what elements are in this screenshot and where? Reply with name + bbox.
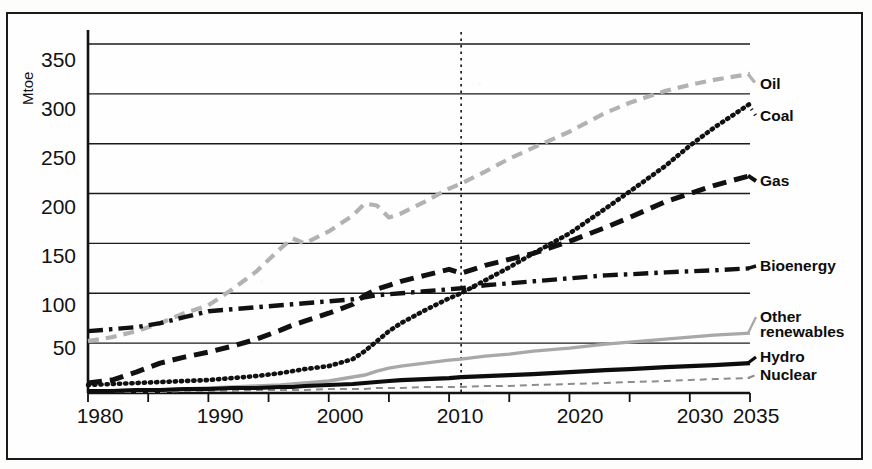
label-connector-oil — [748, 74, 756, 84]
series-line-bioenergy — [88, 268, 750, 331]
label-connector-other-renewables — [748, 317, 756, 333]
label-connector-hydro — [748, 357, 756, 363]
energy-demand-line-chart — [0, 0, 872, 469]
label-connector-nuclear — [748, 375, 756, 378]
chart-figure: Mtoe 350 300 250 200 150 100 50 1980 199… — [0, 0, 872, 469]
label-connector-gas — [748, 176, 756, 181]
gridlines — [88, 44, 750, 343]
series-line-hydro — [88, 363, 750, 391]
axes — [88, 30, 750, 393]
x-axis-ticks — [88, 393, 750, 402]
label-connector-bioenergy — [748, 266, 756, 268]
data-series-group — [88, 74, 756, 392]
